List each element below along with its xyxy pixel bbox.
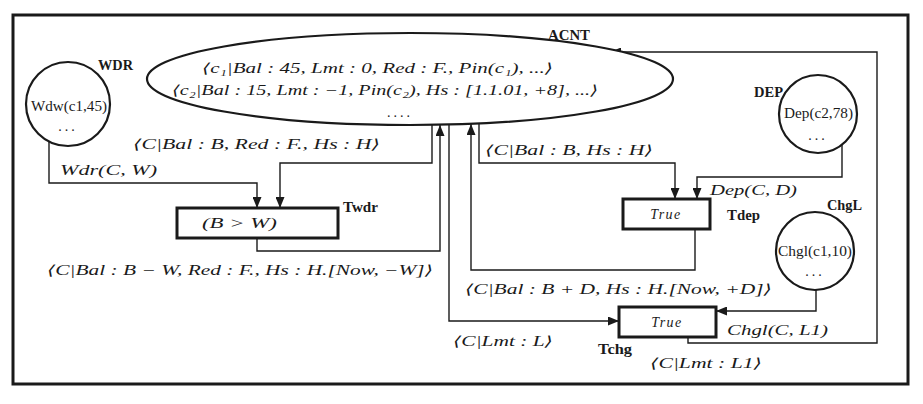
token: ⟨c₁|Bal : 45, Lmt : 0, Red : F., Pin(c₁)… bbox=[202, 61, 553, 77]
arc-acnt-to-tdep: ⟨C|Bal : B, Hs : H⟩ bbox=[479, 123, 675, 199]
transition-label: Twdr bbox=[343, 200, 378, 215]
arc-inscription: ⟨C|Bal : B + D, Hs : H.[Now, +D]⟩ bbox=[465, 282, 772, 297]
arc-inscription: Dep(C, D) bbox=[709, 183, 798, 199]
token: Dep(c2,78) bbox=[784, 106, 853, 122]
arrow-icon bbox=[479, 123, 675, 199]
token: Chgl(c1,10) bbox=[778, 244, 852, 260]
arc-inscription: ⟨C|Bal : B − W, Red : F., Hs : H.[Now, −… bbox=[47, 263, 433, 278]
arc-chgl-to-tchg: Chgl(C, L1) bbox=[716, 290, 828, 339]
token-ellipsis: ... bbox=[58, 119, 78, 134]
place-chgl[interactable]: ChgL Chgl(c1,10) ... bbox=[776, 198, 862, 290]
transition-label: Tdep bbox=[727, 208, 760, 223]
token: ⟨c₂|Bal : 15, Lmt : −1, Pin(c₂), Hs : [1… bbox=[172, 83, 598, 99]
token-ellipsis: ... bbox=[805, 264, 825, 279]
place-wdr[interactable]: WDR Wdw(c1,45) ... bbox=[26, 58, 134, 146]
arc-inscription: ⟨C|Bal : B, Red : F., Hs : H⟩ bbox=[133, 137, 380, 152]
arc-inscription: ⟨C|Lmt : L⟩ bbox=[453, 334, 553, 349]
arc-inscription: ⟨C|Lmt : L1⟩ bbox=[650, 356, 762, 371]
place-label: WDR bbox=[98, 58, 134, 73]
arc-inscription: ⟨C|Bal : B, Hs : H⟩ bbox=[485, 143, 653, 158]
transition-guard: True bbox=[651, 315, 683, 330]
place-label: ACNT bbox=[548, 28, 591, 43]
place-dep[interactable]: DEP Dep(c2,78) ... bbox=[754, 75, 857, 153]
transition-twdr[interactable]: (B > W) Twdr bbox=[177, 200, 378, 238]
place-label: DEP bbox=[754, 85, 783, 100]
transition-tchg[interactable]: True Tchg bbox=[598, 307, 716, 357]
place-label: ChgL bbox=[827, 198, 862, 213]
transition-tdep[interactable]: True Tdep bbox=[623, 199, 760, 229]
token: Wdw(c1,45) bbox=[31, 99, 107, 115]
arc-acnt-to-twdr: ⟨C|Bal : B, Red : F., Hs : H⟩ bbox=[133, 124, 432, 208]
place-acnt[interactable]: ACNT ⟨c₁|Bal : 45, Lmt : 0, Red : F., Pi… bbox=[147, 28, 673, 125]
token-ellipsis: .... bbox=[387, 105, 413, 120]
arc-inscription: Wdr(C, W) bbox=[60, 163, 158, 179]
arc-inscription: Chgl(C, L1) bbox=[727, 323, 828, 339]
token-ellipsis: ... bbox=[808, 128, 828, 143]
petri-net-diagram: Wdr(C, W) ⟨C|Bal : B, Red : F., Hs : H⟩ … bbox=[0, 0, 923, 404]
transition-guard: True bbox=[650, 207, 682, 222]
transition-label: Tchg bbox=[598, 342, 632, 357]
transition-guard: (B > W) bbox=[202, 216, 278, 232]
